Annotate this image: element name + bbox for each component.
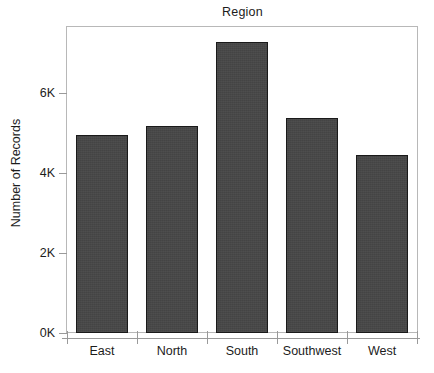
bar-southwest[interactable] <box>286 118 338 333</box>
y-tick-mark <box>59 333 67 334</box>
bar-chart: Region Number of Records 6K4K2K0K EastNo… <box>0 0 434 373</box>
y-tick-label: 4K <box>0 166 55 180</box>
x-axis-separator <box>417 331 418 344</box>
x-axis-line <box>62 338 420 339</box>
y-tick-mark <box>59 93 67 94</box>
bar-east[interactable] <box>76 135 128 333</box>
bar-north[interactable] <box>146 126 198 333</box>
x-tick-label-north: North <box>137 343 207 359</box>
y-tick-mark <box>59 173 67 174</box>
y-tick-mark <box>59 253 67 254</box>
chart-title: Region <box>66 4 419 20</box>
bar-west[interactable] <box>356 155 408 333</box>
x-tick-label-west: West <box>347 343 417 359</box>
x-tick-label-southwest: Southwest <box>277 343 347 359</box>
y-tick-label: 0K <box>0 326 55 340</box>
bar-south[interactable] <box>216 42 268 333</box>
x-tick-label-east: East <box>67 343 137 359</box>
plot-area <box>67 27 417 333</box>
x-tick-label-south: South <box>207 343 277 359</box>
y-tick-label: 2K <box>0 246 55 260</box>
y-tick-label: 6K <box>0 86 55 100</box>
